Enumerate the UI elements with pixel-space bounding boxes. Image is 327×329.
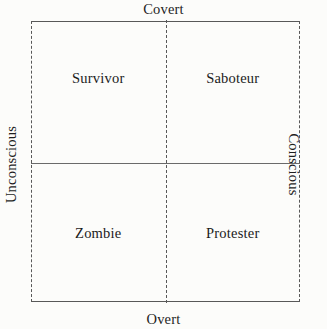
- quadrant-cell-top-right: Saboteur: [166, 21, 301, 162]
- axis-label-left: Unconscious: [0, 0, 22, 329]
- quadrant-label-saboteur: Saboteur: [206, 71, 259, 86]
- quadrant-box: Survivor Saboteur Zombie Protester: [31, 21, 300, 302]
- quadrant-label-zombie: Zombie: [75, 226, 121, 241]
- quadrant-cell-top-left: Survivor: [31, 21, 166, 162]
- quadrant-cell-bottom-left: Zombie: [31, 162, 166, 303]
- quadrant-label-protester: Protester: [206, 226, 259, 241]
- quadrant-matrix-figure: Covert Overt Unconscious Conscious Survi…: [0, 0, 327, 329]
- quadrant-label-survivor: Survivor: [72, 71, 124, 86]
- axis-label-bottom: Overt: [0, 312, 327, 327]
- quadrant-grid: Survivor Saboteur Zombie Protester: [31, 21, 300, 302]
- quadrant-cell-bottom-right: Protester: [166, 162, 301, 303]
- axis-label-top: Covert: [0, 2, 327, 17]
